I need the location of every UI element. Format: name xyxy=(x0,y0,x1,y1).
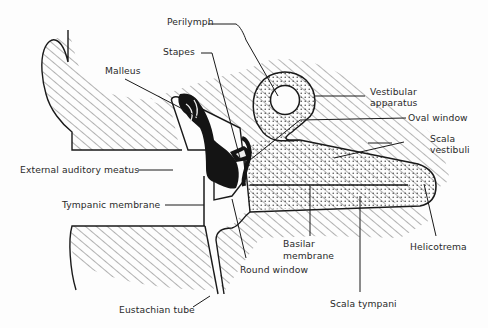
temporal-bone-lower xyxy=(70,206,430,294)
label-round-window: Round window xyxy=(240,264,308,275)
label-tympanic-membrane: Tympanic membrane xyxy=(62,199,160,210)
label-vestibular-apparatus-line2: apparatus xyxy=(370,97,417,108)
label-oval-window: Oval window xyxy=(408,112,468,123)
label-vestibular-apparatus-line1: Vestibular xyxy=(370,86,417,97)
label-external-auditory-meatus: External auditory meatus xyxy=(20,164,139,175)
temporal-bone-upper xyxy=(42,30,182,150)
label-basilar-membrane-line2: membrane xyxy=(283,250,334,261)
ear-anatomy-diagram: Perilymph Stapes Malleus Vestibular appa… xyxy=(0,0,488,328)
label-scala-vestibuli-line1: Scala xyxy=(430,133,455,144)
label-scala-vestibuli-line2: vestibuli xyxy=(430,144,470,155)
label-helicotrema: Helicotrema xyxy=(410,241,467,252)
label-basilar-membrane-line1: Basilar xyxy=(283,238,315,249)
label-eustachian-tube: Eustachian tube xyxy=(119,304,195,315)
label-scala-tympani: Scala tympani xyxy=(330,298,397,309)
label-stapes: Stapes xyxy=(163,46,195,57)
label-perilymph: Perilymph xyxy=(167,16,214,27)
label-malleus: Malleus xyxy=(105,65,141,76)
